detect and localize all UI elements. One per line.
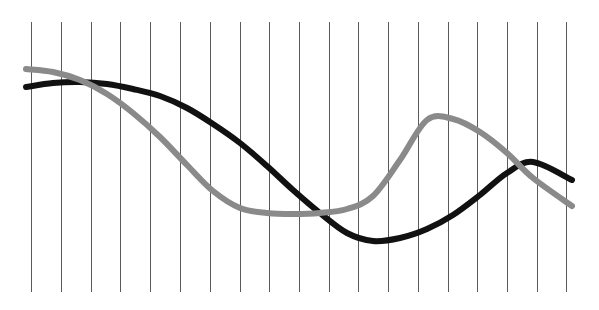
gridline-group — [31, 22, 566, 292]
line-chart — [0, 0, 599, 310]
chart-canvas — [0, 0, 599, 310]
